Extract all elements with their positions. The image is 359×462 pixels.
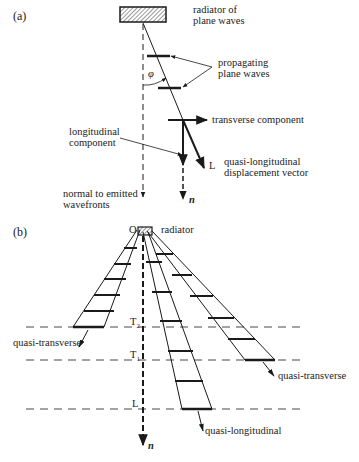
longitudinal-label-2: component <box>69 137 116 148</box>
radiator-label-a: radiator of <box>193 4 237 15</box>
ql-label: quasi-longitudinal <box>205 425 281 436</box>
L-label-b: L <box>132 398 138 409</box>
panel-b <box>26 227 305 445</box>
qt-right-label: quasi-transverse <box>278 370 346 381</box>
n-label-b: n <box>148 440 154 451</box>
panel-a <box>120 7 212 199</box>
radiator-a <box>120 7 166 22</box>
qt-left-label: quasi-transverse <box>13 337 81 348</box>
O-label: O <box>129 224 137 235</box>
T2-label: T2 <box>130 316 140 332</box>
normal-label: normal to emitted <box>63 188 138 199</box>
radiator-label-b: radiator <box>161 224 194 235</box>
normal-label-2: wavefronts <box>63 199 110 210</box>
qlong-label: quasi-longitudinal <box>224 156 300 167</box>
propagating-label-2: plane waves <box>218 68 270 79</box>
longitudinal-label: longitudinal <box>69 126 120 137</box>
qlong-label-2: displacement vector <box>224 167 308 178</box>
radiator-label-a-2: plane waves <box>193 15 245 26</box>
angle-phi: φ <box>148 68 154 79</box>
panel-b-label: (b) <box>13 225 27 240</box>
panel-a-label: (a) <box>13 9 26 24</box>
T1-label: T1 <box>130 349 140 365</box>
n-label-a: n <box>189 194 195 205</box>
transverse-label: transverse component <box>212 114 304 125</box>
L-label-a: L <box>209 160 215 171</box>
propagating-label: propagating <box>218 57 268 68</box>
L-vector <box>183 120 204 168</box>
